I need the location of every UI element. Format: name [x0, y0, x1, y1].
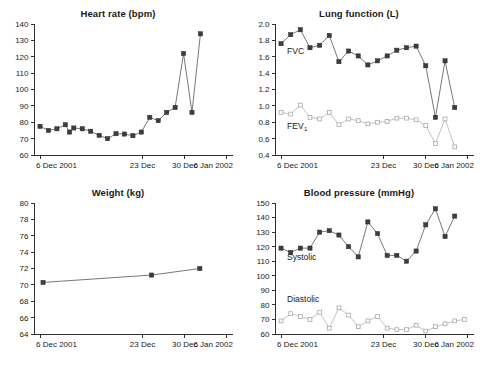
plot-lung-function: 0.40.60.81.01.21.41.61.82.06 Dec 200123 … [241, 4, 482, 183]
svg-text:1.8: 1.8 [258, 36, 270, 45]
svg-text:6 Jan 2002: 6 Jan 2002 [434, 340, 474, 349]
svg-text:6 Dec 2001: 6 Dec 2001 [36, 161, 77, 170]
svg-text:90: 90 [20, 102, 29, 111]
svg-text:80: 80 [20, 118, 29, 127]
panel-heart-rate: Heart rate (bpm) 60708090100110120130140… [0, 4, 241, 183]
panel-weight: Weight (kg) 6466687072747678806 Dec 2001… [0, 183, 241, 362]
svg-text:100: 100 [15, 85, 29, 94]
svg-text:68: 68 [20, 297, 29, 306]
svg-text:66: 66 [20, 314, 29, 323]
svg-text:FEV1: FEV1 [287, 121, 308, 132]
svg-text:Systolic: Systolic [287, 252, 317, 262]
svg-text:23 Dec: 23 Dec [130, 340, 155, 349]
svg-text:60: 60 [20, 151, 29, 160]
svg-text:0.6: 0.6 [258, 135, 270, 144]
svg-text:76: 76 [20, 232, 29, 241]
svg-text:100: 100 [256, 272, 270, 281]
svg-text:70: 70 [261, 315, 270, 324]
svg-text:1.0: 1.0 [258, 102, 270, 111]
plot-heart-rate: 607080901001101201301406 Dec 200123 Dec3… [0, 4, 241, 183]
svg-text:0.4: 0.4 [258, 151, 270, 160]
svg-text:6 Jan 2002: 6 Jan 2002 [193, 340, 233, 349]
plot-weight: 6466687072747678806 Dec 200123 Dec30 Dec… [0, 183, 241, 362]
svg-text:74: 74 [20, 248, 29, 257]
svg-text:6 Dec 2001: 6 Dec 2001 [36, 340, 77, 349]
svg-text:130: 130 [256, 228, 270, 237]
multi-panel-clinical-chart: Heart rate (bpm) 60708090100110120130140… [0, 0, 482, 366]
svg-text:80: 80 [20, 199, 29, 208]
svg-text:0.8: 0.8 [258, 118, 270, 127]
svg-text:23 Dec: 23 Dec [130, 161, 155, 170]
svg-text:FVC: FVC [287, 46, 304, 56]
svg-text:80: 80 [261, 301, 270, 310]
svg-text:120: 120 [15, 53, 29, 62]
svg-text:78: 78 [20, 215, 29, 224]
svg-text:2.0: 2.0 [258, 20, 270, 29]
svg-text:6 Jan 2002: 6 Jan 2002 [193, 161, 233, 170]
svg-text:120: 120 [256, 243, 270, 252]
svg-text:150: 150 [256, 199, 270, 208]
panel-blood-pressure: Blood pressure (mmHg) 607080901001101201… [241, 183, 482, 362]
svg-text:6 Jan 2002: 6 Jan 2002 [434, 161, 474, 170]
svg-text:70: 70 [20, 135, 29, 144]
svg-text:90: 90 [261, 286, 270, 295]
svg-text:140: 140 [256, 213, 270, 222]
svg-text:1.6: 1.6 [258, 53, 270, 62]
svg-text:Diastolic: Diastolic [287, 294, 320, 304]
plot-blood-pressure: 607080901001101201301401506 Dec 200123 D… [241, 183, 482, 362]
svg-text:23 Dec: 23 Dec [371, 340, 396, 349]
svg-text:130: 130 [15, 36, 29, 45]
svg-text:6 Dec 2001: 6 Dec 2001 [277, 161, 318, 170]
svg-text:23 Dec: 23 Dec [371, 161, 396, 170]
svg-text:72: 72 [20, 264, 29, 273]
svg-text:6 Dec 2001: 6 Dec 2001 [277, 340, 318, 349]
svg-text:1.2: 1.2 [258, 85, 270, 94]
svg-text:70: 70 [20, 281, 29, 290]
svg-text:140: 140 [15, 20, 29, 29]
panel-lung-function: Lung function (L) 0.40.60.81.01.21.41.61… [241, 4, 482, 183]
svg-text:64: 64 [20, 330, 29, 339]
svg-text:110: 110 [257, 257, 270, 266]
svg-text:110: 110 [16, 69, 29, 78]
svg-text:1.4: 1.4 [258, 69, 270, 78]
svg-text:60: 60 [261, 330, 270, 339]
